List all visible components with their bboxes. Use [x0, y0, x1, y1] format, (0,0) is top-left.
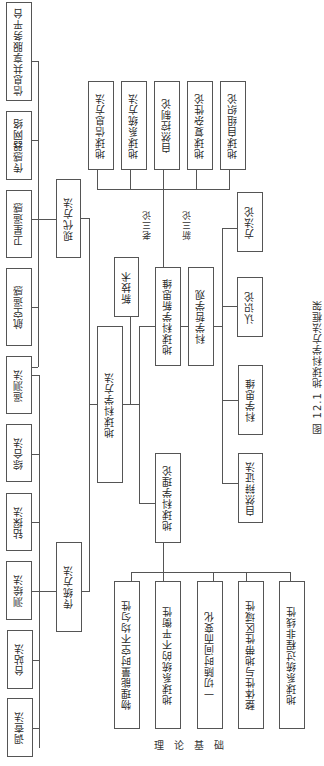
figure-caption: 图 12.1 地球科学方法框架 [310, 300, 324, 434]
node-label: 地球系统过程非线性 [287, 606, 297, 705]
connector [32, 454, 39, 455]
connector [222, 306, 237, 307]
new-three-label: 新三论 [179, 210, 192, 240]
node-system-imbalance: 地球系统的不平衡性 [155, 581, 181, 729]
node-earth-system-method: 地球系统方法 [121, 81, 147, 170]
connector [97, 189, 230, 190]
node-label: 台站法 [15, 643, 25, 676]
connector [196, 169, 197, 189]
node-label: 地球科学新思维 [163, 278, 173, 355]
connector [123, 404, 139, 405]
node-label: 地球信息方法 [96, 93, 106, 159]
connector [222, 483, 238, 484]
node-label: 卫星遥感 [14, 202, 24, 246]
connector [131, 572, 291, 573]
connector [139, 503, 155, 504]
connector [89, 218, 90, 592]
connector [81, 218, 89, 219]
node-label: 测绘法 [14, 574, 24, 607]
connector [222, 228, 223, 483]
old-three-label: 老三论 [139, 210, 152, 240]
node-label: 信息共享服务平台 [14, 8, 24, 96]
node-label: 科学哲学观 [196, 289, 206, 344]
node-label: 新技术 [122, 271, 132, 304]
node-modern-methods: 现代方法 [56, 179, 81, 258]
node-label: 航空遥感 [14, 285, 24, 329]
node-new-tech: 新技术 [114, 257, 139, 317]
foundation-label: 理 论 基 础 [150, 737, 230, 757]
connector [290, 572, 291, 581]
node-label: 钻探法 [14, 506, 24, 539]
connector [32, 307, 38, 308]
node-station: 台站法 [7, 630, 33, 689]
node-dialectics-of-nature: 自然辩证法 [238, 453, 263, 523]
node-label: 现代方法 [64, 197, 74, 241]
node-label: 遥测法 [14, 369, 24, 402]
node-label: 自然辩证法 [246, 461, 256, 516]
connector [38, 61, 39, 367]
connector [32, 375, 39, 376]
connector [32, 367, 38, 368]
connector [33, 728, 39, 729]
node-earth-complexity: 地球复杂性论 [187, 81, 213, 170]
node-earth-info-method: 地球信息方法 [88, 81, 114, 170]
node-label: 地球系统的不平衡性 [163, 606, 173, 705]
node-process-nonlinearity: 地球系统过程非线性 [279, 581, 305, 729]
connector [39, 375, 40, 748]
node-label: 地球自组织论 [228, 93, 238, 159]
node-satellite-rs: 卫星遥感 [6, 190, 32, 258]
connector [222, 400, 238, 401]
node-wholeness-zonality: 整体性与地带性区域性 [238, 581, 264, 729]
connector [82, 591, 89, 592]
connector [130, 316, 131, 404]
connector [139, 326, 155, 327]
node-geoscience-theory: 地球科学理论 [155, 453, 181, 543]
connector [32, 591, 56, 592]
node-sensor-network: 传感器网络 [6, 111, 32, 180]
node-info-sharing-platform: 信息共享服务平台 [6, 2, 32, 101]
node-methodology: 方法论 [237, 192, 263, 252]
foundation-char: 础 [214, 737, 224, 752]
connector [222, 228, 237, 229]
node-label: 自然控制论 [162, 98, 172, 153]
connector [214, 326, 222, 327]
node-traditional-methods: 传统方法 [56, 542, 82, 632]
node-synthesis: 综合法 [6, 424, 32, 482]
node-new-thinking: 地球科学新思维 [155, 267, 181, 366]
connector [213, 572, 214, 581]
node-telemetry: 遥测法 [6, 356, 32, 414]
node-epistemology: 认识论 [237, 277, 263, 337]
foundation-char: 理 [154, 737, 164, 752]
node-label: 调查法 [15, 711, 25, 744]
node-investigation: 调查法 [7, 698, 33, 757]
node-scientific-thinking: 科学思维 [238, 365, 263, 435]
node-drilling: 钻探法 [6, 493, 32, 551]
node-surveying: 测绘法 [6, 561, 32, 620]
node-geoscience-methods: 地球科学方法 [97, 326, 123, 483]
node-energy-nonuniformity: 物理能量时空不均匀性 [114, 581, 140, 729]
connector [32, 219, 56, 220]
foundation-char: 论 [174, 737, 184, 752]
connector [32, 61, 38, 62]
node-natural-cybernetics: 自然控制论 [154, 81, 180, 170]
node-label: 方法论 [245, 206, 255, 239]
node-label: 整体性与地带性区域性 [246, 600, 256, 710]
node-label: 一切随时间而变化 [205, 611, 215, 699]
node-label: 科学思维 [246, 378, 256, 422]
node-label: 物理能量时空不均匀性 [122, 600, 132, 710]
connector [163, 169, 164, 189]
connector [246, 572, 247, 581]
node-label: 地球系统方法 [129, 93, 139, 159]
connector [181, 326, 188, 327]
foundation-char: 基 [194, 737, 204, 752]
node-label: 认识论 [245, 291, 255, 324]
node-time-variation: 一切随时间而变化 [197, 581, 223, 729]
connector [229, 169, 230, 189]
node-label: 传感器网络 [14, 118, 24, 173]
connector [163, 189, 164, 267]
connector [130, 169, 131, 189]
node-label: 地球复杂性论 [195, 93, 205, 159]
connector [32, 140, 38, 141]
node-label: 传统方法 [64, 565, 74, 609]
node-label: 地球科学方法 [105, 372, 115, 438]
